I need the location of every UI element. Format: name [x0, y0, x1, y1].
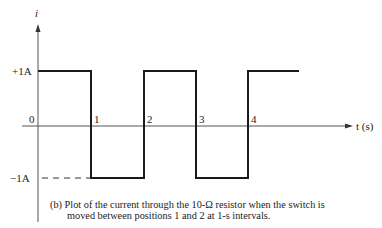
origin-label: 0	[29, 113, 35, 125]
x-axis-arrow-icon	[345, 124, 353, 129]
current-waveform	[38, 71, 299, 178]
tick-3-label: 3	[199, 113, 205, 125]
figure-caption: (b) Plot of the current through the 10-Ω…	[50, 199, 375, 221]
caption-line-2: moved between positions 1 and 2 at 1-s i…	[50, 210, 375, 221]
minus-1a-label: −1A	[10, 172, 30, 184]
x-axis-label: t (s)	[356, 120, 374, 133]
tick-1-label: 1	[94, 113, 100, 125]
plus-1a-label: +1A	[12, 65, 32, 77]
tick-4-label: 4	[251, 113, 257, 125]
y-axis-arrow-icon	[36, 24, 41, 32]
current-plot: i +1A −1A 0 1 2 3 4 t (s)	[0, 0, 382, 228]
caption-line-1: (b) Plot of the current through the 10-Ω…	[50, 199, 325, 210]
tick-2-label: 2	[147, 113, 153, 125]
y-axis-label: i	[35, 7, 38, 19]
